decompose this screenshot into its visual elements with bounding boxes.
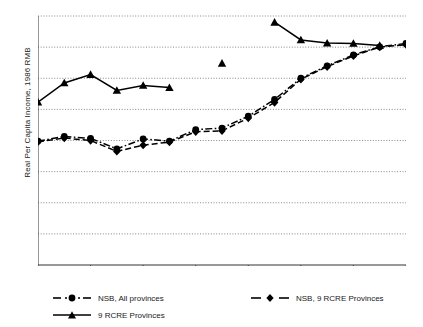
legend-item-nsb-9-rcre-provinces[interactable]: NSB, 9 RCRE Provinces bbox=[250, 291, 384, 305]
legend-label: 9 RCRE Provinces bbox=[98, 311, 165, 320]
chart-svg: 0100200300400500600700800 19861988199019… bbox=[38, 14, 406, 266]
legend-key-circle-dashdot bbox=[52, 292, 92, 304]
y-axis-label: Real Per Capita Income, 1986 RMB bbox=[23, 28, 32, 198]
chart-figure: Real Per Capita Income, 1986 RMB 0100200… bbox=[0, 0, 423, 327]
legend-item-nsb-all-provinces[interactable]: NSB, All provinces bbox=[52, 291, 164, 305]
series-markers bbox=[38, 18, 406, 156]
plot-area: 0100200300400500600700800 19861988199019… bbox=[38, 14, 406, 266]
legend-key-diamond-dashed bbox=[250, 292, 290, 304]
legend-item-9-rcre-provinces[interactable]: 9 RCRE Provinces bbox=[52, 308, 165, 322]
legend-label: NSB, All provinces bbox=[98, 294, 164, 303]
chart-legend: NSB, All provinces NSB, 9 RCRE Provinces bbox=[52, 291, 412, 325]
legend-label: NSB, 9 RCRE Provinces bbox=[296, 294, 384, 303]
legend-key-triangle-solid bbox=[52, 309, 92, 321]
